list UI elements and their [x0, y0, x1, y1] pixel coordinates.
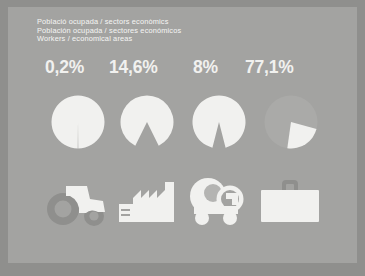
sector-icon-row — [0, 0, 365, 276]
factory-icon — [119, 180, 179, 228]
tractor-icon — [46, 182, 108, 228]
cement-mixer-icon — [188, 176, 246, 228]
briefcase-icon — [258, 180, 322, 228]
infographic-poster: Població ocupada / sectors econòmics Pob… — [0, 0, 365, 276]
